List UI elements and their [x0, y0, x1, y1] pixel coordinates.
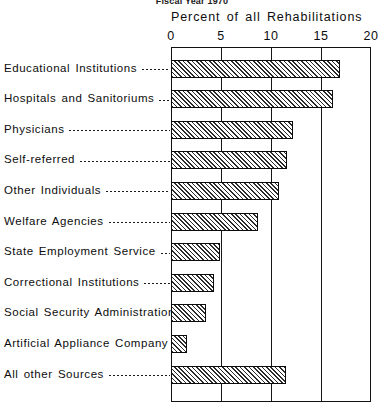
- category-label: Hospitals and Sanitoriums: [0, 92, 154, 104]
- x-axis-title: Percent of all Rehabilitations: [171, 10, 384, 24]
- category-label-row: Physicians: [0, 120, 171, 138]
- bar: [171, 151, 288, 169]
- bar: [171, 274, 215, 292]
- bar-series: [172, 48, 370, 401]
- category-label-row: Self-referred: [0, 150, 171, 168]
- category-label: Artificial Appliance Company: [0, 337, 168, 349]
- leader-dots: [79, 156, 170, 167]
- leader-dots: [143, 278, 170, 289]
- x-tick-label-0: 0: [167, 29, 174, 43]
- leader-dots: [108, 217, 170, 228]
- category-label: Educational Institutions: [0, 62, 137, 74]
- category-label: Self-referred: [0, 153, 75, 165]
- category-label-row: State Employment Service: [0, 242, 171, 260]
- leader-dots: [160, 248, 170, 259]
- category-label: Other Individuals: [0, 184, 101, 196]
- category-label-row: All other Sources: [0, 365, 171, 383]
- x-tick-label-20: 20: [364, 29, 379, 43]
- category-label-row: Educational Institutions: [0, 59, 171, 77]
- category-label: Physicians: [0, 123, 64, 135]
- bar: [171, 213, 259, 231]
- leader-dots: [68, 125, 170, 136]
- leader-dots: [141, 64, 170, 75]
- category-label: State Employment Service: [0, 245, 156, 257]
- category-label-row: Welfare Agencies: [0, 212, 171, 230]
- category-label-row: Hospitals and Sanitoriums: [0, 89, 171, 107]
- bar: [171, 304, 207, 322]
- x-tick-label-5: 5: [217, 29, 224, 43]
- category-label: Social Security Administration: [0, 306, 171, 318]
- x-axis-tick-labels: 05101520: [0, 29, 384, 45]
- category-labels: Educational InstitutionsHospitals and Sa…: [0, 47, 171, 402]
- bar: [171, 121, 294, 139]
- category-label: Correctional Institutions: [0, 276, 139, 288]
- chart-title: Fiscal Year 1970: [0, 0, 384, 6]
- category-label-row: Correctional Institutions: [0, 273, 171, 291]
- x-tick-label-15: 15: [314, 29, 329, 43]
- bar: [171, 60, 341, 78]
- leader-dots: [105, 186, 170, 197]
- x-tick-label-10: 10: [264, 29, 279, 43]
- bar: [171, 335, 188, 353]
- bar: [171, 182, 280, 200]
- category-label-row: Artificial Appliance Company: [0, 334, 171, 352]
- leader-dots: [108, 370, 170, 381]
- category-label: All other Sources: [0, 368, 104, 380]
- bar: [171, 366, 287, 384]
- plot-area: [171, 47, 371, 402]
- bar: [171, 90, 334, 108]
- bar: [171, 243, 221, 261]
- category-label: Welfare Agencies: [0, 215, 104, 227]
- category-label-row: Other Individuals: [0, 181, 171, 199]
- leader-dots: [158, 95, 170, 106]
- category-label-row: Social Security Administration: [0, 303, 171, 321]
